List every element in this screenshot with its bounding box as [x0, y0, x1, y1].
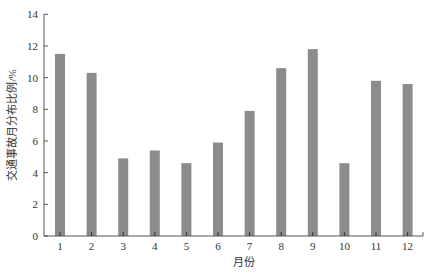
y-tick-label: 0 [33, 230, 39, 242]
y-axis: 02468101214 [27, 8, 48, 242]
y-tick-label: 4 [33, 167, 39, 179]
y-tick-label: 6 [33, 135, 39, 147]
bar-month-2 [87, 73, 97, 236]
x-tick-label: 9 [310, 240, 316, 252]
x-tick-label: 8 [278, 240, 284, 252]
bar-month-3 [118, 158, 128, 236]
y-tick-label: 14 [27, 8, 39, 20]
x-tick-label: 6 [215, 240, 221, 252]
x-tick-label: 12 [402, 240, 413, 252]
x-axis-title: 月份 [233, 256, 255, 268]
y-tick-label: 10 [27, 72, 39, 84]
bar-month-10 [339, 163, 349, 236]
bar-month-12 [403, 84, 413, 236]
x-tick-label: 10 [339, 240, 351, 252]
x-tick-label: 3 [120, 240, 126, 252]
y-tick-label: 2 [33, 198, 39, 210]
x-axis: 123456789101112 [44, 232, 423, 252]
bar-month-8 [276, 68, 286, 236]
x-tick-label: 5 [184, 240, 190, 252]
x-tick-label: 7 [247, 240, 253, 252]
y-tick-label: 12 [27, 40, 38, 52]
x-tick-label: 4 [152, 240, 158, 252]
bar-month-4 [150, 150, 160, 236]
bar-month-9 [308, 49, 318, 236]
bar-month-5 [181, 163, 191, 236]
bar-month-1 [55, 54, 65, 236]
bar-month-11 [371, 81, 381, 236]
y-tick-label: 8 [33, 103, 39, 115]
y-axis-title: 交通事故月分布比例/% [5, 69, 18, 180]
bar-chart: 02468101214 123456789101112 月份 交通事故月分布比例… [0, 0, 430, 277]
x-tick-label: 1 [57, 240, 63, 252]
x-tick-label: 11 [371, 240, 382, 252]
x-tick-label: 2 [89, 240, 95, 252]
bar-month-7 [245, 111, 255, 236]
bar-month-6 [213, 143, 223, 236]
bars [55, 49, 413, 236]
